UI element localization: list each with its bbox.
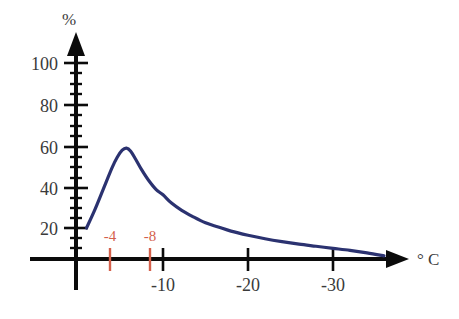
x-tick-minus-20: -20 [236, 248, 260, 295]
y-tick-label-20: 20 [40, 219, 58, 239]
y-tick-label-100: 100 [31, 54, 58, 74]
annotation-marker-minus-8: -8 [144, 228, 157, 271]
x-axis-arrow-icon [386, 250, 409, 268]
x-tick-minus-30: -30 [321, 248, 345, 295]
y-axis-arrow-icon [67, 32, 85, 56]
y-axis-group [67, 32, 85, 290]
y-tick-60: 60 [40, 138, 88, 158]
x-tick-label-minus-30: -30 [321, 275, 345, 295]
y-tick-20: 20 [40, 219, 88, 239]
x-tick-label-minus-10: -10 [151, 275, 175, 295]
y-tick-80: 80 [40, 96, 88, 116]
y-tick-label-40: 40 [40, 179, 58, 199]
annotation-label-minus-8: -8 [144, 228, 157, 244]
x-axis-group [30, 250, 409, 268]
chart-container: 100 80 60 40 20 -10 -20 -30 [0, 0, 459, 319]
y-tick-100: 100 [31, 54, 88, 74]
annotation-label-minus-4: -4 [104, 228, 117, 244]
x-tick-minus-10: -10 [151, 248, 175, 295]
annotation-marker-minus-4: -4 [104, 228, 117, 271]
y-axis-title: % [62, 10, 76, 29]
x-tick-label-minus-20: -20 [236, 275, 260, 295]
data-series-curve [87, 148, 385, 256]
y-tick-label-80: 80 [40, 96, 58, 116]
chart-plot-area: 100 80 60 40 20 -10 -20 -30 [0, 0, 459, 319]
y-tick-label-60: 60 [40, 138, 58, 158]
y-tick-40: 40 [40, 179, 88, 199]
x-axis-title: ° C [417, 250, 439, 269]
